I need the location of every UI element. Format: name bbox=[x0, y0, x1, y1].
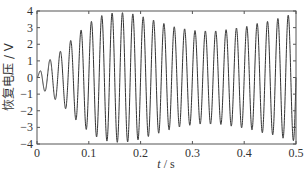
signal-line bbox=[37, 13, 296, 143]
x-tick-label: 0.1 bbox=[81, 146, 96, 160]
x-axis-ticks: 00.10.20.30.40.5 bbox=[34, 11, 304, 160]
y-tick-label: −1 bbox=[20, 87, 33, 101]
x-axis-label: t / s bbox=[157, 157, 175, 171]
y-tick-label: −2 bbox=[20, 104, 33, 118]
x-tick-label: 0 bbox=[34, 146, 40, 160]
x-tick-label: 0.4 bbox=[237, 146, 252, 160]
y-tick-label: −3 bbox=[20, 120, 33, 134]
y-tick-label: 4 bbox=[27, 4, 33, 18]
y-tick-label: −4 bbox=[20, 137, 33, 151]
recovery-voltage-chart: −4−3−2−101234 00.10.20.30.40.5 恢复电压 / V … bbox=[0, 0, 307, 172]
y-tick-label: 1 bbox=[27, 54, 33, 68]
plot-area bbox=[37, 13, 296, 143]
x-tick-label: 0.5 bbox=[289, 146, 304, 160]
y-tick-label: 3 bbox=[27, 21, 33, 35]
x-tick-label: 0.2 bbox=[133, 146, 148, 160]
y-tick-label: 2 bbox=[27, 37, 33, 51]
y-axis-label: 恢复电压 / V bbox=[2, 42, 16, 111]
y-tick-label: 0 bbox=[27, 71, 33, 85]
x-tick-label: 0.3 bbox=[185, 146, 200, 160]
